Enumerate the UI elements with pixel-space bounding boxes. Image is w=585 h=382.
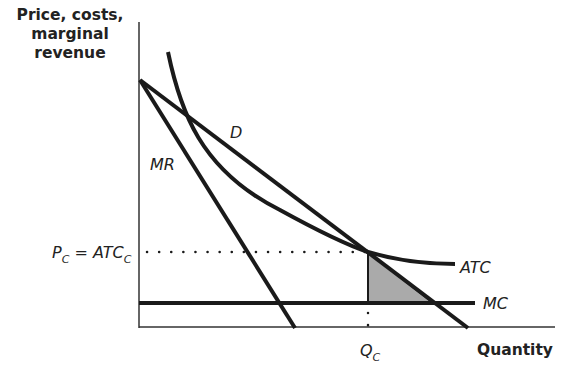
atc-curve <box>168 52 455 264</box>
quantity-qc-label: QC <box>360 341 381 364</box>
x-axis-label: Quantity <box>477 341 553 359</box>
mc-label: MC <box>483 294 509 313</box>
y-axis-label-line1: Price, costs, <box>17 6 124 24</box>
demand-label: D <box>230 123 242 142</box>
price-atc-label: PC = ATCC <box>52 243 132 266</box>
atc-label: ATC <box>459 258 492 277</box>
y-axis-label-line3: revenue <box>34 44 105 62</box>
monopolistic-competition-diagram: Price, costs, marginal revenue D MR ATC … <box>0 0 585 382</box>
y-axis-label-line2: marginal <box>31 25 108 43</box>
mr-label: MR <box>150 155 175 174</box>
